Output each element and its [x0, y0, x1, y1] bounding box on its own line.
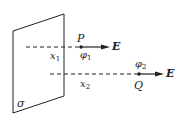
label-phi2: φ2 [135, 59, 146, 71]
arrowhead-P [101, 45, 110, 50]
phi1-symbol: φ [80, 49, 87, 60]
diagram-graphics [0, 0, 183, 127]
point-Q-dot [137, 72, 141, 76]
x1-subscript: 1 [56, 55, 60, 63]
label-sigma: σ [17, 98, 25, 109]
label-P: P [77, 33, 84, 44]
label-Q: Q [134, 80, 143, 91]
label-phi1: φ1 [80, 50, 91, 62]
label-E2: E [166, 68, 174, 79]
x2-subscript: 2 [86, 83, 90, 91]
label-E1: E [112, 41, 120, 52]
label-x2: x2 [80, 79, 90, 91]
phi2-subscript: 2 [142, 63, 146, 71]
phi1-subscript: 1 [87, 54, 91, 62]
diagram-canvas: P φ1 x1 E φ2 Q x2 E σ [0, 0, 183, 127]
label-x1: x1 [50, 51, 60, 63]
phi2-symbol: φ [135, 58, 142, 69]
arrowhead-Q [155, 72, 164, 77]
